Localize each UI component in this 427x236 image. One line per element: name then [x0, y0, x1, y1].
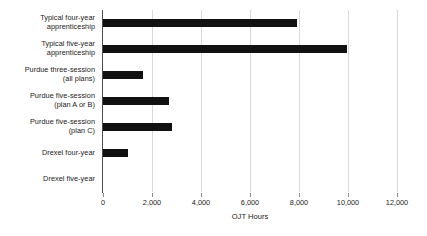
gridline	[250, 10, 251, 192]
bar	[103, 149, 128, 157]
category-label-line: Drexel five-year	[0, 175, 95, 184]
bar	[103, 123, 172, 131]
gridline	[397, 10, 398, 192]
category-label: Drexel four-year	[0, 149, 95, 158]
bar	[103, 45, 347, 53]
x-tick-mark	[299, 193, 300, 197]
value-axis-line	[102, 10, 103, 193]
bar	[103, 71, 143, 79]
category-label: Typical four-yearapprenticeship	[0, 14, 95, 31]
gridline	[201, 10, 202, 192]
x-tick-mark	[152, 193, 153, 197]
category-label-line: apprenticeship	[0, 23, 95, 32]
category-label: Purdue three-session(all plans)	[0, 66, 95, 83]
category-label: Purdue five-session(plan C)	[0, 118, 95, 135]
category-label-line: apprenticeship	[0, 49, 95, 58]
category-axis: Typical four-yearapprenticeshipTypical f…	[0, 10, 99, 192]
category-label: Drexel five-year	[0, 175, 95, 184]
gridline	[348, 10, 349, 192]
category-label-line: Drexel four-year	[0, 149, 95, 158]
x-tick-mark	[397, 193, 398, 197]
x-tick-mark	[103, 193, 104, 197]
bar	[103, 97, 169, 105]
category-label: Typical five-yearapprenticeship	[0, 40, 95, 57]
bar-chart: Typical four-yearapprenticeshipTypical f…	[0, 0, 427, 236]
x-tick-label: 12,000	[367, 198, 427, 207]
x-tick-mark	[348, 193, 349, 197]
x-axis-title: OJT Hours	[103, 212, 397, 221]
gridline	[299, 10, 300, 192]
x-tick-mark	[201, 193, 202, 197]
category-label-line: (all plans)	[0, 75, 95, 84]
category-label-line: (plan A or B)	[0, 101, 95, 110]
x-tick-mark	[250, 193, 251, 197]
plot-area	[103, 10, 397, 192]
category-label: Purdue five-session(plan A or B)	[0, 92, 95, 109]
category-label-line: (plan C)	[0, 127, 95, 136]
bar	[103, 19, 297, 27]
